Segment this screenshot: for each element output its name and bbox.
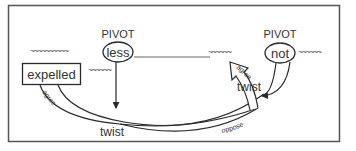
twist-label-bottom: twist — [100, 125, 125, 139]
pivot-word-not: not — [271, 46, 289, 61]
context-tilde-under-less: ~~~~~~ — [88, 65, 112, 75]
agree-band-outer — [40, 85, 258, 126]
pivot-diagram: PIVOT less PIVOT not ~~~~~~~~~~ ~~~~~~ ~… — [0, 0, 356, 151]
target-word-expelled: expelled — [27, 67, 75, 82]
pivot-word-less: less — [106, 45, 130, 60]
pivot-label-not: PIVOT — [263, 28, 296, 40]
oppose-label: oppose — [221, 120, 245, 134]
agree-left-label: agree — [41, 89, 57, 107]
twist-arc-not — [262, 63, 276, 95]
twist-label-right: twist — [237, 80, 262, 94]
pivot-label-less: PIVOT — [101, 28, 134, 40]
context-tilde-left: ~~~~~~~~~~ — [30, 46, 69, 56]
context-tilde-right: ~~~~~~ — [298, 47, 322, 57]
context-tilde-mid: ~~~~~~ — [208, 47, 232, 57]
